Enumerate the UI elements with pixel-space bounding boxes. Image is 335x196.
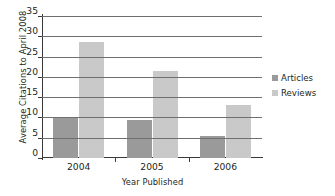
legend-label: Reviews [281, 88, 316, 98]
y-tick-label: 0 [16, 148, 38, 158]
y-tick-mark [38, 138, 42, 139]
bar-reviews-2004 [79, 42, 104, 158]
y-tick-mark [38, 97, 42, 98]
gridline [42, 117, 262, 118]
x-tick-label-2004: 2004 [49, 161, 109, 173]
bar-articles-2005 [127, 120, 152, 158]
gridline [42, 138, 262, 139]
gridline [42, 77, 262, 78]
y-tick-label: 5 [16, 128, 38, 138]
y-tick-mark [38, 77, 42, 78]
legend-swatch-icon [272, 75, 278, 81]
x-axis-tick-labels: 200420052006 [42, 161, 263, 175]
legend-label: Articles [281, 73, 313, 83]
y-tick-label: 20 [16, 67, 38, 77]
legend: ArticlesReviews [272, 70, 334, 100]
y-tick-label: 15 [16, 87, 38, 97]
bars-layer [42, 16, 262, 158]
y-tick-label: 30 [16, 26, 38, 36]
x-axis-title: Year Published [42, 177, 263, 187]
y-tick-label: 25 [16, 47, 38, 57]
y-tick-label: 35 [16, 6, 38, 16]
bar-reviews-2005 [153, 71, 178, 158]
y-tick-mark [38, 117, 42, 118]
legend-item-articles[interactable]: Articles [272, 70, 334, 85]
y-tick-mark [38, 57, 42, 58]
y-tick-label: 10 [16, 107, 38, 117]
bar-reviews-2006 [226, 105, 251, 158]
bar-articles-2006 [200, 136, 225, 158]
x-tick-label-2005: 2005 [122, 161, 182, 173]
gridline [42, 97, 262, 98]
plot-area [42, 16, 262, 158]
gridline [42, 36, 262, 37]
y-tick-mark [38, 16, 42, 17]
gridline [42, 16, 262, 17]
legend-swatch-icon [272, 90, 278, 96]
legend-item-reviews[interactable]: Reviews [272, 85, 334, 100]
y-axis-tick-labels: 05101520253035 [16, 11, 38, 159]
x-tick-label-2006: 2006 [195, 161, 255, 173]
y-tick-mark [38, 158, 42, 159]
gridline [42, 57, 262, 58]
bar-chart: Average Citations to April 2008 05101520… [0, 0, 335, 196]
y-tick-mark [38, 36, 42, 37]
